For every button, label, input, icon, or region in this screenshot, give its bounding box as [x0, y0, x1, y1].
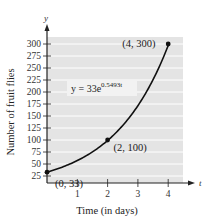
x-tick-label: 1: [75, 189, 80, 199]
y-tick-label: 50: [32, 159, 42, 169]
point-label: (4, 300): [122, 38, 156, 50]
point-label: (0, 33): [55, 178, 83, 190]
x-tick-label: 2: [105, 189, 110, 199]
y-tick-label: 25: [32, 171, 42, 181]
y-tick-label: 175: [27, 99, 42, 109]
x-axis-variable: t: [199, 178, 202, 188]
x-tick-label: 4: [166, 189, 171, 199]
y-tick-label: 150: [27, 111, 42, 121]
y-tick-label: 200: [27, 87, 42, 97]
x-axis-label: Time (in days): [76, 205, 138, 217]
y-axis-arrow-icon: [45, 24, 50, 31]
x-axis-arrow-icon: [188, 181, 195, 186]
point-label: (2, 100): [114, 142, 148, 154]
y-tick-label: 75: [32, 147, 42, 157]
y-tick-label: 125: [27, 123, 42, 133]
chart: 255075100125150175200225250275300 1234 y…: [0, 0, 210, 224]
y-tick-label: 300: [27, 39, 42, 49]
y-tick-label: 275: [27, 51, 42, 61]
y-tick-label: 225: [27, 75, 42, 85]
y-tick-label: 250: [27, 63, 42, 73]
y-axis-label: Number of fruit flies: [5, 68, 16, 155]
x-tick-label: 3: [136, 189, 141, 199]
y-tick-label: 100: [27, 135, 42, 145]
y-axis-variable: y: [43, 13, 48, 23]
